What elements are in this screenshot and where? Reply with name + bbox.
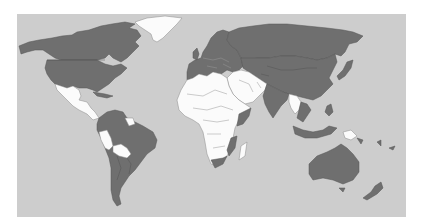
world-map (17, 14, 406, 217)
